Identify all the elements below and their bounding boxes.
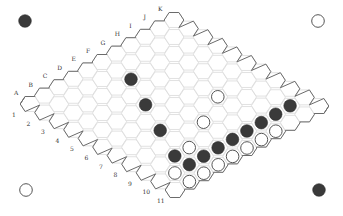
- black-stone-F10: [226, 133, 239, 146]
- row-label-5: 5: [70, 145, 74, 152]
- row-label-6: 6: [85, 154, 89, 161]
- black-stone-I10: [269, 108, 282, 121]
- column-label-K: K: [158, 5, 163, 12]
- black-stone-G10: [241, 125, 254, 138]
- white-stone-D9: [183, 141, 196, 154]
- white-stone-E11: [226, 150, 239, 163]
- white-stone-F8: [197, 116, 210, 129]
- column-label-D: D: [57, 64, 62, 71]
- row-label-7: 7: [99, 163, 103, 170]
- black-stone-E5: [139, 99, 152, 112]
- white-stone-H11: [270, 125, 283, 138]
- row-label-4: 4: [56, 137, 60, 144]
- row-label-9: 9: [128, 180, 132, 187]
- column-label-G: G: [100, 39, 105, 46]
- white-stone-C11: [198, 167, 211, 180]
- black-stone-F3: [125, 73, 138, 86]
- row-label-11: 11: [157, 197, 165, 204]
- white-stone-G11: [255, 133, 268, 146]
- row-label-10: 10: [143, 188, 151, 195]
- row-label-1: 1: [12, 111, 16, 118]
- white-stone-F11: [241, 142, 254, 155]
- corner-black-marker-bottom-right: [313, 184, 326, 197]
- column-label-F: F: [86, 47, 90, 54]
- column-label-C: C: [43, 72, 48, 79]
- black-stone-H10: [255, 116, 268, 129]
- corner-white-marker-top-right: [312, 15, 325, 28]
- row-label-3: 3: [41, 128, 45, 135]
- white-stone-B10: [169, 167, 182, 180]
- corner-black-marker-top-left: [19, 15, 32, 28]
- column-label-A: A: [13, 89, 19, 96]
- column-label-I: I: [129, 22, 132, 29]
- black-stone-C9: [169, 150, 182, 163]
- column-label-J: J: [143, 13, 147, 21]
- row-label-8: 8: [114, 171, 118, 178]
- black-stone-E10: [212, 142, 225, 155]
- column-label-E: E: [72, 55, 76, 62]
- black-stone-D7: [154, 124, 167, 137]
- hex-board[interactable]: ABCDEFGHIJK1234567891011: [0, 0, 343, 216]
- black-stone-C10: [183, 158, 196, 171]
- black-stone-D10: [197, 150, 210, 163]
- white-stone-B11: [183, 175, 196, 188]
- column-label-H: H: [115, 30, 120, 37]
- column-label-B: B: [28, 81, 33, 88]
- black-stone-J10: [284, 100, 297, 113]
- row-label-2: 2: [27, 120, 31, 127]
- corner-white-marker-bottom-left: [20, 184, 33, 197]
- white-stone-D11: [212, 159, 225, 172]
- white-stone-H7: [212, 91, 225, 104]
